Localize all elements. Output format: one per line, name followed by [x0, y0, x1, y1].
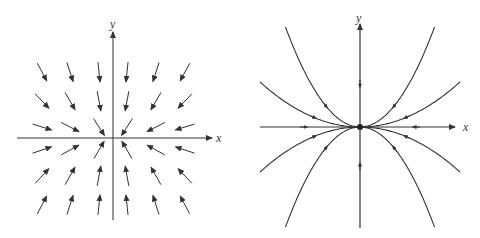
trajectory-curve [286, 127, 361, 227]
direction-arrow [65, 167, 75, 184]
direction-arrow [176, 147, 195, 153]
flow-direction-marker [405, 136, 410, 138]
flow-direction-marker [323, 147, 327, 152]
direction-arrow [125, 91, 129, 111]
trajectory-curve [286, 27, 361, 127]
direction-arrow [61, 145, 78, 155]
left-direction-field: x y [17, 17, 222, 220]
direction-arrow [37, 196, 46, 214]
direction-arrows [32, 62, 194, 215]
right-phase-portrait: x y [260, 11, 469, 228]
direction-arrow [175, 124, 194, 130]
flow-direction-marker [394, 102, 398, 107]
direction-arrow [32, 124, 51, 130]
direction-arrow [151, 92, 161, 109]
direction-arrow [98, 195, 100, 215]
direction-arrow [126, 62, 128, 82]
direction-arrow [153, 62, 159, 81]
direction-arrow [180, 196, 189, 214]
direction-arrow [61, 122, 79, 131]
direction-arrow [65, 92, 75, 109]
direction-arrow [122, 141, 132, 158]
flow-direction-marker [394, 147, 398, 152]
direction-arrow [37, 63, 46, 81]
left-y-label: y [109, 17, 116, 31]
direction-arrow [178, 169, 192, 184]
direction-arrow [94, 119, 105, 136]
trajectory-curve [360, 127, 460, 172]
right-y-label: y [355, 11, 362, 25]
direction-arrow [125, 166, 129, 186]
trajectory-curve [360, 127, 435, 227]
left-x-label: x [215, 131, 222, 145]
direction-arrow [151, 167, 161, 184]
direction-arrow [67, 195, 73, 214]
direction-arrow [97, 91, 101, 111]
equilibrium-point [357, 124, 363, 130]
direction-arrow [97, 166, 101, 186]
direction-arrow [180, 63, 190, 81]
direction-arrow [178, 94, 192, 108]
trajectory-curve [360, 82, 460, 127]
trajectory-curve [360, 27, 435, 127]
direction-arrow [147, 122, 165, 131]
direction-arrow [122, 119, 133, 136]
direction-arrow [126, 195, 128, 215]
flow-direction-marker [310, 136, 315, 138]
direction-arrow [98, 62, 100, 82]
direction-arrow [35, 94, 49, 108]
trajectory-curve [260, 82, 360, 127]
direction-arrow [35, 169, 49, 184]
flow-direction-marker [405, 116, 410, 118]
flow-direction-marker [323, 102, 327, 107]
diagram-canvas: x y x y [0, 0, 480, 238]
direction-arrow [33, 147, 52, 153]
direction-arrow [67, 62, 73, 81]
right-x-label: x [462, 120, 469, 134]
direction-arrow [94, 141, 104, 158]
flow-direction-marker [310, 116, 315, 118]
direction-arrow [153, 195, 159, 214]
trajectory-curve [260, 127, 360, 172]
direction-arrow [147, 145, 164, 155]
